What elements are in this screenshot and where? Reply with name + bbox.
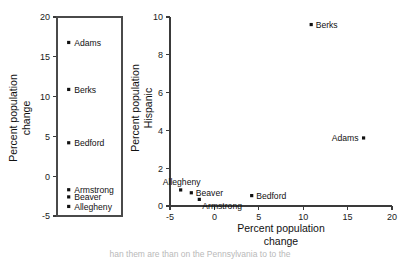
right-x-axis-title-line: change [264, 235, 299, 247]
data-point-label: Adams [332, 133, 359, 143]
right-x-tick-label: 15 [343, 212, 353, 222]
data-point-marker [67, 205, 70, 208]
data-point-marker [67, 188, 70, 191]
right-x-tick-labels: -505101520 [166, 212, 397, 222]
right-x-tick-label: -5 [166, 212, 174, 222]
data-point-label: Allegheny [74, 202, 112, 212]
right-x-tick-label: 5 [256, 212, 261, 222]
right-panel: Percent populationHispanic Percent popul… [129, 12, 397, 247]
data-point-label: Berks [316, 20, 338, 30]
left-y-axis-title-line: change [20, 101, 32, 136]
right-data-points: BerksAdamsBedfordAlleghenyBeaverArmstron… [163, 20, 365, 212]
data-point-label: Allegheny [163, 177, 201, 187]
right-y-axis-title: Percent populationHispanic [129, 64, 154, 152]
data-point-marker [250, 194, 253, 197]
right-x-axis-title: Percent populationchange [237, 222, 325, 247]
left-y-axis-title-line: Percent population [7, 74, 19, 162]
right-y-tick-label: 0 [158, 201, 163, 211]
data-point-marker [67, 195, 70, 198]
left-y-tick-marks [53, 17, 57, 216]
data-point-marker [67, 141, 70, 144]
data-point-label: Bedford [74, 138, 104, 148]
left-y-tick-label: 10 [40, 92, 50, 102]
page-caption: han them are than on the Pennsylvania to… [110, 249, 291, 259]
right-y-tick-label: 2 [158, 164, 163, 174]
data-point-marker [362, 136, 365, 139]
right-x-axis-title-line: Percent population [237, 222, 325, 234]
left-data-points: AdamsBerksBedfordArmstrongBeaverAlleghen… [67, 38, 114, 212]
data-point-marker [190, 191, 193, 194]
left-y-axis-title: Percent populationchange [7, 74, 32, 162]
data-point-label: Berks [74, 85, 96, 95]
right-x-tick-label: 20 [387, 212, 397, 222]
caption-text: han them are than on the Pennsylvania to… [110, 249, 291, 259]
right-axis-lines [170, 17, 392, 206]
right-y-tick-label: 10 [153, 12, 163, 22]
two-panel-scatter-figure: Percent populationchange -505101520 Adam… [0, 0, 400, 259]
left-y-tick-label: 15 [40, 52, 50, 62]
left-y-tick-label: 5 [45, 132, 50, 142]
right-x-tick-label: 10 [298, 212, 308, 222]
left-y-tick-labels: -505101520 [40, 12, 50, 221]
left-y-tick-label: -5 [42, 211, 50, 221]
right-y-axis-title-line: Percent population [129, 64, 141, 152]
left-panel: Percent populationchange -505101520 Adam… [7, 12, 122, 221]
figure-container: Percent populationchange -505101520 Adam… [0, 0, 400, 259]
right-y-tick-label: 4 [158, 126, 163, 136]
data-point-label: Beaver [74, 192, 101, 202]
right-y-tick-label: 6 [158, 88, 163, 98]
data-point-marker [310, 23, 313, 26]
data-point-label: Bedford [256, 191, 286, 201]
data-point-label: Adams [74, 38, 101, 48]
data-point-label: Beaver [196, 188, 223, 198]
data-point-label: Armstrong [202, 201, 242, 211]
left-y-tick-label: 20 [40, 12, 50, 22]
data-point-marker [179, 188, 182, 191]
right-y-tick-labels: 0246810 [153, 12, 163, 211]
right-y-tick-label: 8 [158, 50, 163, 60]
data-point-marker [198, 198, 201, 201]
data-point-marker [67, 88, 70, 91]
data-point-marker [67, 41, 70, 44]
right-y-axis-title-line: Hispanic [142, 88, 154, 128]
left-y-tick-label: 0 [45, 172, 50, 182]
right-x-tick-label: 0 [212, 212, 217, 222]
